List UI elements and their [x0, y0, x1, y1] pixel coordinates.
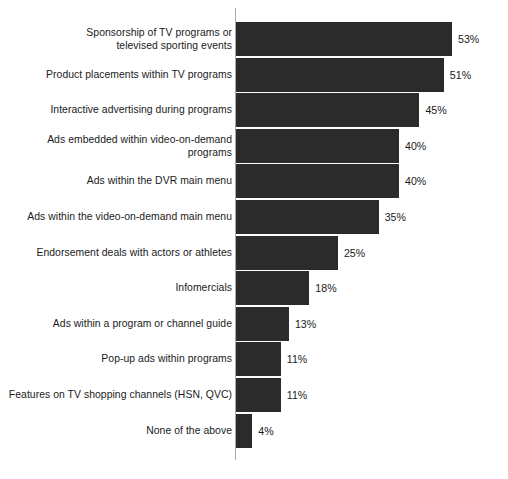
bar[interactable]	[236, 378, 281, 412]
bar[interactable]	[236, 307, 289, 341]
bar-value-label: 35%	[385, 211, 406, 223]
bar-chart: Sponsorship of TV programs or televised …	[0, 0, 508, 479]
bar[interactable]	[236, 342, 281, 376]
category-label: Ads embedded within video-on-demand prog…	[4, 132, 232, 159]
bar[interactable]	[236, 164, 399, 198]
bar-value-label: 51%	[450, 69, 471, 81]
bar-value-label: 18%	[315, 282, 336, 294]
category-label: None of the above	[4, 424, 232, 437]
bar-value-label: 11%	[287, 389, 307, 401]
category-label: Pop-up ads within programs	[4, 353, 232, 366]
bar-value-label: 13%	[295, 318, 316, 330]
bar-row[interactable]: Endorsement deals with actors or athlete…	[0, 236, 508, 270]
bar-row[interactable]: Ads embedded within video-on-demand prog…	[0, 129, 508, 163]
category-label: Infomercials	[4, 281, 232, 294]
category-label: Ads within a program or channel guide	[4, 317, 232, 330]
bar-value-label: 40%	[405, 175, 426, 187]
bar[interactable]	[236, 22, 452, 56]
bar-value-label: 4%	[258, 425, 273, 437]
bar[interactable]	[236, 129, 399, 163]
bar-row[interactable]: Pop-up ads within programs11%	[0, 342, 508, 376]
category-label: Interactive advertising during programs	[4, 103, 232, 116]
bar-row[interactable]: Ads within the DVR main menu40%	[0, 164, 508, 198]
bar-value-label: 25%	[344, 247, 365, 259]
bar-value-label: 45%	[425, 104, 446, 116]
bar-row[interactable]: None of the above4%	[0, 414, 508, 448]
bar[interactable]	[236, 271, 309, 305]
bar-row[interactable]: Ads within the video-on-demand main menu…	[0, 200, 508, 234]
bar[interactable]	[236, 236, 338, 270]
bar[interactable]	[236, 414, 252, 448]
bar-row[interactable]: Product placements within TV programs51%	[0, 58, 508, 92]
category-label: Endorsement deals with actors or athlete…	[4, 246, 232, 259]
category-label: Ads within the DVR main menu	[4, 175, 232, 188]
category-label: Sponsorship of TV programs or televised …	[4, 26, 232, 53]
bar-row[interactable]: Features on TV shopping channels (HSN, Q…	[0, 378, 508, 412]
bar[interactable]	[236, 93, 419, 127]
bar-value-label: 40%	[405, 140, 426, 152]
plot-area: Sponsorship of TV programs or televised …	[0, 0, 508, 479]
bar-value-label: 53%	[458, 33, 479, 45]
bar-row[interactable]: Interactive advertising during programs4…	[0, 93, 508, 127]
bar-value-label: 11%	[287, 353, 307, 365]
category-label: Product placements within TV programs	[4, 68, 232, 81]
bar-row[interactable]: Infomercials18%	[0, 271, 508, 305]
category-label: Ads within the video-on-demand main menu	[4, 210, 232, 223]
category-label: Features on TV shopping channels (HSN, Q…	[4, 388, 232, 401]
bar-row[interactable]: Sponsorship of TV programs or televised …	[0, 22, 508, 56]
bar-row[interactable]: Ads within a program or channel guide13%	[0, 307, 508, 341]
bar[interactable]	[236, 58, 444, 92]
bar[interactable]	[236, 200, 379, 234]
